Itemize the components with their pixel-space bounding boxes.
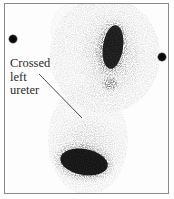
label-line-1: Crossed: [10, 57, 50, 71]
crossed-left-ureter-label: Crossed left ureter: [10, 57, 50, 98]
scan-image: [0, 0, 174, 199]
left-marker-dot: [8, 34, 18, 44]
label-line-2: left: [10, 71, 50, 85]
label-line-3: ureter: [10, 84, 50, 98]
right-marker-dot: [157, 52, 167, 62]
